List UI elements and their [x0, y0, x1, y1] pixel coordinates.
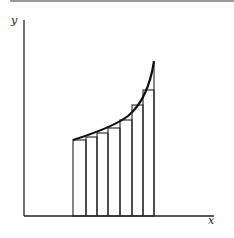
- x-axis-label: x: [208, 214, 215, 227]
- rectangle-7: [143, 90, 154, 216]
- rectangle-5: [120, 120, 132, 216]
- y-axis-label: y: [10, 14, 18, 27]
- rectangles: [73, 90, 154, 216]
- rectangle-1: [73, 140, 86, 216]
- rectangle-3: [97, 133, 108, 216]
- rectangle-2: [86, 137, 97, 216]
- rectangle-6: [132, 105, 143, 216]
- riemann-sum-diagram: y x: [0, 0, 234, 238]
- rectangle-4: [108, 128, 120, 216]
